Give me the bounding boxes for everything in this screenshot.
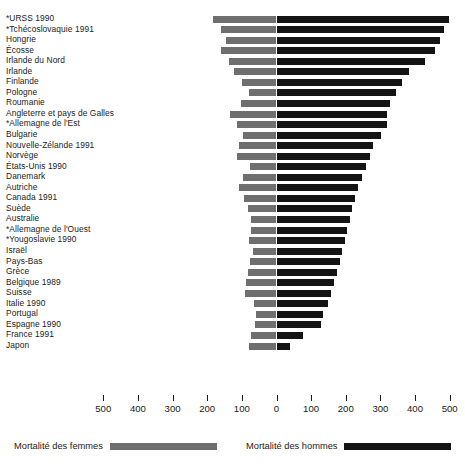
bar-hommes xyxy=(277,321,321,328)
bar-hommes xyxy=(277,26,444,33)
category-label: Espagne 1990 xyxy=(6,319,61,330)
bar-hommes xyxy=(277,47,436,54)
category-label: Angleterre et pays de Galles xyxy=(6,108,114,119)
bar-hommes xyxy=(277,153,371,160)
chart-row: *Tchécoslovaquie 1991 xyxy=(0,25,465,36)
bar-femmes xyxy=(251,332,277,339)
chart-row: Hongrie xyxy=(0,35,465,46)
bar-hommes xyxy=(277,311,323,318)
bar-femmes xyxy=(237,153,276,160)
chart-row: Suisse xyxy=(0,288,465,299)
x-axis: 5004003002001000100200300400500 xyxy=(0,395,465,423)
chart-row: *Yougoslavie 1990 xyxy=(0,235,465,246)
chart-row: Portugal xyxy=(0,309,465,320)
bar-femmes xyxy=(243,132,277,139)
bar-hommes xyxy=(277,58,426,65)
bar-hommes xyxy=(277,279,335,286)
bar-femmes xyxy=(226,37,277,44)
legend-item-hommes: Mortalité des hommes xyxy=(246,440,451,452)
axis-tick xyxy=(380,395,381,401)
bar-femmes xyxy=(213,16,276,23)
bar-hommes xyxy=(277,216,350,223)
axis-tick xyxy=(311,395,312,401)
category-label: Bulgarie xyxy=(6,129,37,140)
category-label: Belgique 1989 xyxy=(6,277,61,288)
chart-row: Nouvelle-Zélande 1991 xyxy=(0,141,465,152)
axis-tick xyxy=(242,395,243,401)
bar-hommes xyxy=(277,79,403,86)
chart-row: Norvège xyxy=(0,151,465,162)
bar-hommes xyxy=(277,174,363,181)
category-label: *URSS 1990 xyxy=(6,13,54,24)
category-label: Hongrie xyxy=(6,34,36,45)
category-label: Norvège xyxy=(6,150,38,161)
category-label: Roumanie xyxy=(6,97,45,108)
axis-tick xyxy=(103,395,104,401)
bar-femmes xyxy=(241,100,277,107)
category-label: Australie xyxy=(6,213,39,224)
category-label: Suisse xyxy=(6,287,32,298)
bar-femmes xyxy=(239,184,276,191)
legend-item-femmes: Mortalité des femmes xyxy=(14,440,217,452)
chart-row: Autriche xyxy=(0,183,465,194)
category-label: Irlande xyxy=(6,66,32,77)
bar-hommes xyxy=(277,142,374,149)
chart-row: Canada 1991 xyxy=(0,193,465,204)
category-label: Danemark xyxy=(6,171,45,182)
category-label: Écosse xyxy=(6,45,34,56)
category-label: Suède xyxy=(6,203,31,214)
bar-femmes xyxy=(244,195,277,202)
bar-hommes xyxy=(277,300,328,307)
bar-hommes xyxy=(277,100,391,107)
bar-hommes xyxy=(277,227,348,234)
category-label: Finlande xyxy=(6,76,39,87)
axis-tick-label: 500 xyxy=(430,403,465,414)
bar-femmes xyxy=(242,79,276,86)
chart-row: Italie 1990 xyxy=(0,299,465,310)
bar-hommes xyxy=(277,184,359,191)
chart-row: Danemark xyxy=(0,172,465,183)
bar-femmes xyxy=(229,58,276,65)
chart-plot-area: *URSS 1990*Tchécoslovaquie 1991HongrieÉc… xyxy=(0,14,465,352)
bar-femmes xyxy=(250,163,277,170)
bar-femmes xyxy=(254,300,277,307)
category-label: Pologne xyxy=(6,87,37,98)
chart-legend: Mortalité des femmes Mortalité des homme… xyxy=(0,440,465,456)
category-label: *Allemagne de l'Est xyxy=(6,118,80,129)
bar-hommes xyxy=(277,37,441,44)
bar-hommes xyxy=(277,237,346,244)
legend-swatch-femmes xyxy=(110,443,217,450)
axis-tick xyxy=(207,395,208,401)
bar-hommes xyxy=(277,89,397,96)
chart-row: Pologne xyxy=(0,88,465,99)
bar-hommes xyxy=(277,16,450,23)
axis-tick xyxy=(138,395,139,401)
axis-tick xyxy=(277,395,278,401)
bar-hommes xyxy=(277,195,356,202)
bar-femmes xyxy=(249,343,277,350)
category-label: *Tchécoslovaquie 1991 xyxy=(6,24,94,35)
bar-femmes xyxy=(245,290,277,297)
category-label: Irlande du Nord xyxy=(6,55,65,66)
bar-femmes xyxy=(243,174,277,181)
bar-femmes xyxy=(248,205,276,212)
bar-hommes xyxy=(277,258,340,265)
axis-tick xyxy=(415,395,416,401)
category-label: Canada 1991 xyxy=(6,192,57,203)
chart-row: Finlande xyxy=(0,77,465,88)
category-label: Israël xyxy=(6,245,27,256)
bar-femmes xyxy=(246,279,276,286)
category-label: France 1991 xyxy=(6,329,54,340)
legend-swatch-hommes xyxy=(344,443,451,450)
chart-row: Israël xyxy=(0,246,465,257)
bar-hommes xyxy=(277,68,410,75)
bar-femmes xyxy=(237,121,277,128)
category-label: Japon xyxy=(6,340,29,351)
axis-tick xyxy=(346,395,347,401)
bar-femmes xyxy=(255,321,276,328)
chart-row: Écosse xyxy=(0,46,465,57)
bar-hommes xyxy=(277,290,331,297)
chart-row: Irlande xyxy=(0,67,465,78)
category-label: *Yougoslavie 1990 xyxy=(6,234,77,245)
bar-femmes xyxy=(221,26,276,33)
